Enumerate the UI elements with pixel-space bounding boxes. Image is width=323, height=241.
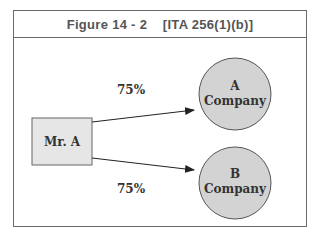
company-b-line1: B [230,167,240,181]
company-b-line2: Company [204,182,267,196]
owner-node: Mr. A [32,118,92,165]
edge-to-company-b: 75% [92,158,194,196]
company-a-line1: A [229,79,240,93]
ownership-diagram: Mr. A 75% 75% A Company B Company [0,0,323,241]
owner-label: Mr. A [44,135,81,149]
edge-label-b: 75% [117,182,146,196]
edge-label-a: 75% [117,83,146,97]
company-a-line2: Company [204,94,267,108]
edge-to-company-a: 75% [92,83,194,122]
company-a-node: A Company [199,58,271,130]
company-b-node: B Company [199,147,271,219]
